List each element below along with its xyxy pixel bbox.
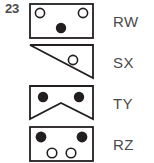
answer-figure-ty[interactable] [29, 85, 95, 121]
filled-dot-marker [77, 132, 88, 143]
answer-label-ty[interactable]: TY [113, 96, 133, 111]
answer-label-rw[interactable]: RW [113, 14, 139, 29]
filled-dot-marker [36, 132, 47, 143]
open-circle-marker [35, 8, 44, 17]
figure-outline-triangle [30, 45, 93, 78]
puzzle-item-container: 23 RW SX TY RZ [0, 0, 154, 163]
figure-outline-chevron [30, 86, 93, 119]
item-number: 23 [5, 2, 19, 15]
filled-dot-marker [38, 92, 48, 102]
answer-figure-rw[interactable] [29, 3, 95, 39]
filled-dot-marker [56, 23, 66, 33]
open-circle-marker [66, 148, 76, 158]
answer-figure-rz[interactable] [29, 126, 95, 163]
answer-label-sx[interactable]: SX [113, 55, 134, 70]
open-circle-marker [47, 148, 57, 158]
answer-label-rz[interactable]: RZ [113, 137, 134, 152]
filled-dot-marker [74, 92, 84, 102]
answer-figure-sx[interactable] [29, 44, 95, 80]
open-circle-marker [68, 55, 77, 64]
open-circle-marker [78, 8, 87, 17]
